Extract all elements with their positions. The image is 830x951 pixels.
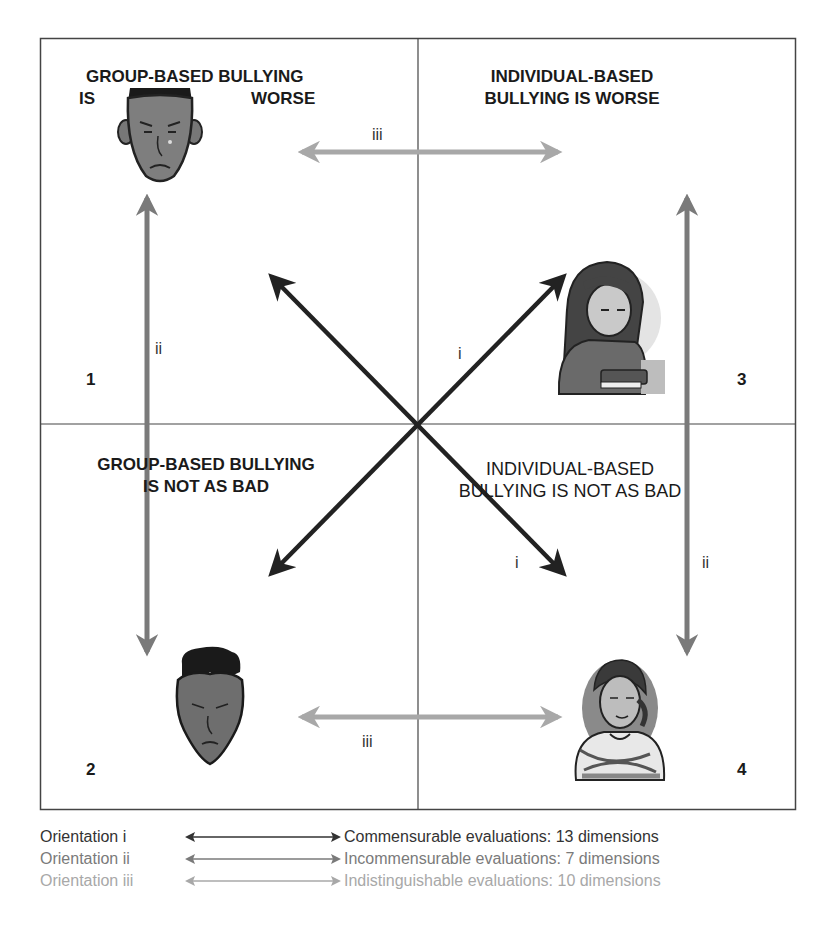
arrow-label-iii-bottom: iii [362, 733, 373, 751]
quadrant-2-number: 2 [86, 760, 95, 780]
double-arrow-icon [185, 830, 341, 844]
legend-description: Indistinguishable evaluations: 10 dimens… [344, 872, 661, 890]
double-arrow-icon [185, 852, 341, 866]
quadrant-2-heading-line2: IS NOT AS BAD [66, 476, 346, 498]
girl-arms-crossed-icon [576, 660, 665, 780]
legend: Orientation i Commensurable evaluations:… [40, 828, 800, 894]
quadrant-1-heading: GROUP-BASED BULLYING IS WORSE [86, 66, 346, 110]
arrow-label-ii-left: ii [155, 340, 162, 358]
legend-row-orientation-i: Orientation i Commensurable evaluations:… [40, 828, 800, 850]
quadrant-1-number: 1 [86, 370, 95, 390]
arrow-label-iii-top: iii [372, 126, 383, 144]
arrow-label-i-lower: i [515, 554, 519, 572]
legend-name: Orientation ii [40, 850, 130, 868]
quadrant-1-heading-line2-right: WORSE [251, 88, 315, 110]
quadrant-4-heading: INDIVIDUAL-BASED BULLYING IS NOT AS BAD [440, 458, 700, 502]
quadrant-3-heading-line1: INDIVIDUAL-BASED [462, 66, 682, 88]
arrow-label-i-upper: i [458, 345, 462, 363]
legend-row-orientation-iii: Orientation iii Indistinguishable evalua… [40, 872, 800, 894]
quadrant-4-heading-line2: BULLYING IS NOT AS BAD [440, 480, 700, 502]
legend-name: Orientation iii [40, 872, 133, 890]
quadrant-4-number: 4 [737, 760, 746, 780]
double-arrow-icon [185, 874, 341, 888]
legend-description: Commensurable evaluations: 13 dimensions [344, 828, 659, 846]
quadrant-2-heading: GROUP-BASED BULLYING IS NOT AS BAD [66, 454, 346, 498]
quadrant-3-number: 3 [737, 370, 746, 390]
quadrant-1-heading-line2-left: IS [79, 88, 95, 110]
quadrant-4-heading-line1: INDIVIDUAL-BASED [440, 458, 700, 480]
legend-name: Orientation i [40, 828, 126, 846]
frowning-boy-face-icon [177, 647, 243, 764]
legend-description: Incommensurable evaluations: 7 dimension… [344, 850, 660, 868]
quadrant-3-heading: INDIVIDUAL-BASED BULLYING IS WORSE [462, 66, 682, 110]
legend-row-orientation-ii: Orientation ii Incommensurable evaluatio… [40, 850, 800, 872]
sad-girl-with-book-icon [559, 262, 665, 394]
quadrant-1-heading-line1: GROUP-BASED BULLYING [86, 66, 346, 88]
arrow-label-ii-right: ii [702, 554, 709, 572]
quadrant-2-heading-line1: GROUP-BASED BULLYING [66, 454, 346, 476]
quadrant-3-heading-line2: BULLYING IS WORSE [462, 88, 682, 110]
